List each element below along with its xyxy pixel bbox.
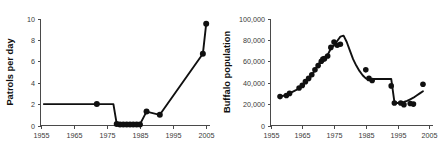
- y-tick-label: 0: [261, 122, 265, 131]
- buffalo-series-markers: [277, 39, 426, 107]
- x-tick-label: 1965: [295, 131, 311, 140]
- buffalo-x-ticklabels: 195519651975198519952005: [264, 131, 438, 140]
- data-point: [325, 53, 331, 59]
- data-point: [137, 121, 143, 127]
- y-tick-label: 10: [27, 15, 35, 24]
- x-tick-label: 1985: [359, 131, 375, 140]
- buffalo-chart-panel: 020,00040,00060,00080,000100,000 1955196…: [219, 0, 438, 152]
- buffalo-y-axis-title: Buffalo population: [222, 31, 232, 113]
- buffalo-series-line: [280, 36, 423, 103]
- buffalo-y-ticklabels: 020,00040,00060,00080,000100,000: [239, 15, 265, 131]
- x-tick-label: 1955: [264, 131, 280, 140]
- x-tick-label: 1995: [166, 131, 182, 140]
- x-tick-label: 1955: [34, 131, 50, 140]
- y-tick-label: 60,000: [243, 57, 265, 66]
- data-point: [277, 94, 283, 100]
- patrols-chart-panel: 0246810 195519651975198519952005 Patrols…: [0, 0, 219, 152]
- x-tick-label: 2005: [199, 131, 215, 140]
- buffalo-axes: [271, 19, 433, 126]
- data-point: [401, 102, 407, 108]
- patrols-axes: [41, 19, 210, 126]
- data-point: [328, 45, 334, 51]
- y-tick-label: 6: [31, 57, 35, 66]
- y-tick-label: 2: [31, 100, 35, 109]
- x-tick-label: 1975: [327, 131, 343, 140]
- y-tick-label: 40,000: [243, 79, 265, 88]
- patrols-x-ticklabels: 195519651975198519952005: [34, 131, 215, 140]
- y-tick-label: 80,000: [243, 36, 265, 45]
- y-tick-label: 4: [31, 79, 35, 88]
- data-point: [338, 41, 344, 47]
- x-tick-label: 2005: [422, 131, 438, 140]
- data-point: [392, 100, 398, 106]
- y-tick-label: 0: [31, 122, 35, 131]
- data-point: [287, 91, 293, 97]
- data-point: [388, 83, 394, 89]
- buffalo-x-ticks: [272, 126, 430, 129]
- x-tick-label: 1965: [67, 131, 83, 140]
- data-point: [94, 101, 100, 107]
- data-point: [200, 51, 206, 57]
- data-point: [203, 21, 209, 27]
- data-point: [309, 72, 315, 78]
- figure-container: 0246810 195519651975198519952005 Patrols…: [0, 0, 438, 152]
- patrols-chart-svg: 0246810 195519651975198519952005 Patrols…: [0, 0, 219, 152]
- data-point: [144, 109, 150, 115]
- patrols-series-markers: [94, 21, 209, 128]
- y-tick-label: 100,000: [239, 15, 265, 24]
- data-point: [369, 78, 375, 84]
- patrols-y-ticklabels: 0246810: [27, 15, 35, 131]
- x-tick-label: 1995: [391, 131, 407, 140]
- x-tick-label: 1975: [100, 131, 116, 140]
- data-point: [363, 67, 369, 73]
- patrols-series-line: [44, 24, 206, 125]
- data-point: [411, 101, 417, 107]
- data-point: [420, 82, 426, 88]
- data-point: [157, 112, 163, 118]
- y-tick-label: 20,000: [243, 100, 265, 109]
- buffalo-chart-svg: 020,00040,00060,00080,000100,000 1955196…: [219, 0, 438, 152]
- x-tick-label: 1985: [133, 131, 149, 140]
- y-tick-label: 8: [31, 36, 35, 45]
- patrols-y-axis-title: Patrols per day: [5, 38, 15, 106]
